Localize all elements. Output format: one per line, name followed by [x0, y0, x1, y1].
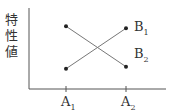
x-tick-label-a1: A1 [61, 94, 75, 112]
series-line-b2 [66, 26, 126, 67]
data-point [124, 26, 128, 30]
interaction-plot [0, 0, 175, 112]
data-point [64, 24, 68, 28]
series-line-b1 [66, 28, 126, 69]
x-tick-label-a2: A2 [121, 94, 135, 112]
data-point [64, 67, 68, 71]
series-label-b1: B1 [134, 19, 149, 37]
series-label-b2: B2 [134, 46, 149, 64]
data-point [124, 65, 128, 69]
